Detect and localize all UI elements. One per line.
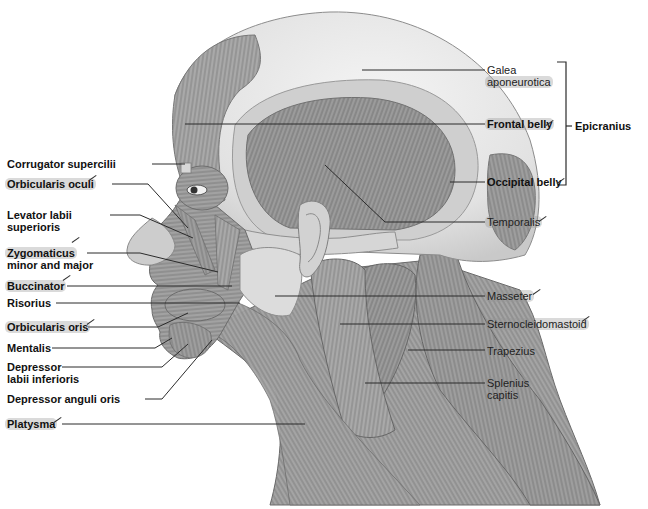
label-frontal-belly: Frontal belly: [487, 118, 554, 130]
label-trapezius: Trapezius: [487, 345, 535, 357]
label-levator-labii-superioris: Levator labii superioris: [7, 209, 72, 233]
label-orbicularis-oris: Orbicularis oris: [7, 321, 90, 333]
label-masseter: Masseter: [487, 290, 534, 302]
anatomy-figure: Corrugator supercilii Orbicularis oculi …: [0, 0, 648, 509]
label-depressor-anguli-oris: Depressor anguli oris: [7, 393, 120, 405]
label-epicranius: Epicranius: [575, 120, 631, 132]
label-splenius-capitis: Splenius capitis: [487, 377, 531, 401]
label-corrugator-supercilii: Corrugator supercilii: [7, 158, 116, 170]
label-platysma: Platysma: [7, 418, 57, 430]
label-orbicularis-oculi: Orbicularis oculi: [7, 178, 96, 190]
label-zygomaticus: Zygomaticus minor and major: [7, 247, 93, 271]
label-galea-aponeurotica: Galea aponeurotica: [487, 64, 553, 88]
label-occipital-belly: Occipital belly: [487, 176, 562, 188]
label-buccinator: Buccinator: [7, 280, 66, 292]
label-mentalis: Mentalis: [7, 342, 51, 354]
label-depressor-labii-inferioris: Depressor labii inferioris: [7, 361, 79, 385]
label-temporalis: Temporalis: [487, 216, 542, 228]
epicranius-bracket: [557, 62, 572, 185]
label-risorius: Risorius: [7, 297, 51, 309]
label-sternocleidomastoid: Sternocleidomastoid: [487, 318, 589, 330]
